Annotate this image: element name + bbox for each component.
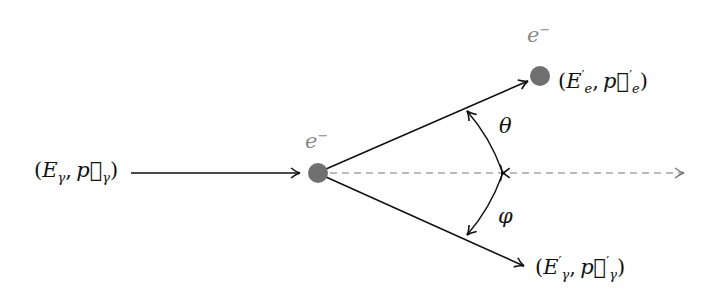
- phi-arc: [467, 175, 502, 235]
- phi-label: φ: [498, 204, 513, 228]
- paren-open: (: [558, 69, 566, 93]
- paren-open: (: [34, 158, 42, 182]
- final-electron-label: (E′e, p⃗′e): [558, 68, 648, 96]
- momentum-subscript: γ: [102, 170, 110, 185]
- theta-arc: [467, 111, 502, 171]
- momentum-symbol: p⃗: [603, 69, 629, 93]
- paren-close: ): [110, 158, 118, 182]
- comma: ,: [569, 255, 576, 279]
- paren-close: ): [640, 69, 648, 93]
- paren-open: (: [535, 255, 543, 279]
- initial-electron-dot: [308, 163, 328, 183]
- incoming-photon-label: (Eγ, p⃗γ): [34, 158, 118, 185]
- initial-electron-label: e−: [305, 128, 328, 153]
- comma: ,: [592, 69, 599, 93]
- momentum-subscript: γ: [609, 267, 617, 282]
- comma: ,: [65, 158, 72, 182]
- scattered-electron-arrow: [326, 81, 528, 169]
- final-electron-dot: [530, 66, 550, 86]
- electron-charge: −: [539, 22, 550, 37]
- momentum-symbol: p⃗: [580, 255, 606, 279]
- scattered-photon-arrow: [326, 177, 524, 266]
- momentum-subscript: e: [632, 81, 640, 96]
- momentum-symbol: p⃗: [76, 158, 102, 182]
- energy-symbol: E: [566, 69, 581, 93]
- electron-charge: −: [317, 128, 328, 143]
- energy-symbol: E: [42, 158, 57, 182]
- final-electron-symbol-label: e−: [527, 22, 550, 47]
- paren-close: ): [617, 255, 625, 279]
- final-photon-label: (E′γ, p⃗′γ): [535, 254, 625, 282]
- electron-symbol: e: [305, 129, 317, 153]
- theta-label: θ: [499, 114, 512, 138]
- diagram-canvas: [0, 0, 722, 295]
- electron-symbol: e: [527, 23, 539, 47]
- energy-symbol: E: [543, 255, 558, 279]
